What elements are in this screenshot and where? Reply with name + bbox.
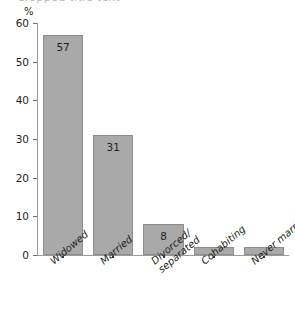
y-axis-tick-label: 50: [16, 56, 29, 67]
bar-slot: 8: [143, 23, 183, 255]
bar-slot: 57: [43, 23, 83, 255]
bars-group: 57318: [38, 23, 289, 255]
y-axis-tick-label: 10: [16, 211, 29, 222]
bar-value-label: 31: [93, 141, 133, 153]
bar-slot: 31: [93, 23, 133, 255]
y-axis-tick-label: 40: [16, 95, 29, 106]
cropped-title-remnant: cropped title text: [0, 0, 295, 5]
y-axis-unit-label: %: [24, 6, 34, 17]
bar-value-label: 57: [43, 41, 83, 53]
y-axis-tick-label: 60: [16, 18, 29, 29]
y-axis-tick-label: 30: [16, 134, 29, 145]
bar-chart: cropped title text % 57318 0102030405060…: [0, 0, 295, 319]
y-axis-tick: 10: [33, 216, 37, 217]
x-axis-labels: WidowedMarriedDivorced/separatedCohabiti…: [37, 258, 295, 319]
y-axis-tick: 0: [33, 255, 37, 256]
bar-slot: [244, 23, 284, 255]
y-axis-tick: 50: [33, 62, 37, 63]
y-axis-tick: 60: [33, 23, 37, 24]
y-axis-tick: 20: [33, 178, 37, 179]
y-axis-tick: 30: [33, 139, 37, 140]
plot-area: 57318 0102030405060: [37, 23, 289, 255]
y-axis-tick: 40: [33, 100, 37, 101]
bar-slot: [194, 23, 234, 255]
y-axis-tick-label: 0: [22, 250, 29, 261]
cropped-title-text: cropped title text: [18, 0, 120, 4]
bar[interactable]: [43, 35, 83, 255]
y-axis-tick-label: 20: [16, 172, 29, 183]
